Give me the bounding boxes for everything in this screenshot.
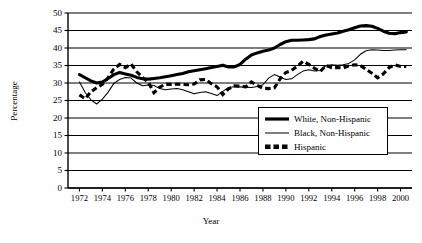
legend-label-black: Black, Non-Hispanic (294, 128, 370, 138)
legend-label-white: White, Non-Hispanic (294, 114, 371, 124)
legend-swatch-dashed-squares (264, 142, 290, 152)
legend-item-hispanic: Hispanic (264, 139, 326, 153)
legend-item-black: Black, Non-Hispanic (264, 125, 370, 139)
series-line-white-non-hispanic (79, 26, 406, 83)
legend-swatch-thick-line (264, 114, 290, 124)
legend-item-white: White, Non-Hispanic (264, 111, 371, 125)
series-line-hispanic (79, 61, 406, 98)
legend: White, Non-Hispanic Black, Non-Hispanic … (258, 107, 388, 155)
legend-label-hispanic: Hispanic (294, 142, 326, 152)
series-line-black-non-hispanic (79, 50, 406, 104)
chart-container: Percentage Year 05101520253035404550 197… (0, 0, 422, 243)
legend-swatch-thin-line (264, 128, 290, 138)
